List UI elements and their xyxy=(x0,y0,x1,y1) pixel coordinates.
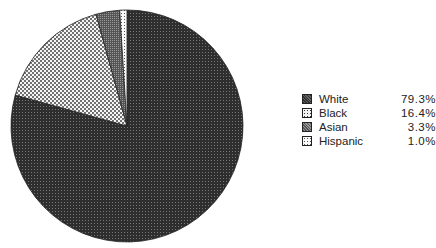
asian-swatch-icon xyxy=(302,122,312,132)
legend-item-white: White 79.3% xyxy=(302,92,436,106)
legend: White 79.3% Black 16.4% Asian 3.3% Hispa… xyxy=(302,92,436,148)
legend-label: Asian xyxy=(319,121,388,133)
legend-item-black: Black 16.4% xyxy=(302,106,436,120)
legend-value: 3.3% xyxy=(388,121,436,133)
white-swatch-icon xyxy=(302,94,312,104)
legend-label: Hispanic xyxy=(319,135,388,147)
pie-chart xyxy=(0,0,260,248)
legend-item-asian: Asian 3.3% xyxy=(302,120,436,134)
black-swatch-icon xyxy=(302,108,312,118)
pie-slices xyxy=(11,10,243,242)
legend-value: 16.4% xyxy=(388,107,436,119)
hispanic-swatch-icon xyxy=(302,136,312,146)
legend-label: Black xyxy=(319,107,388,119)
legend-item-hispanic: Hispanic 1.0% xyxy=(302,134,436,148)
legend-value: 79.3% xyxy=(388,93,436,105)
legend-value: 1.0% xyxy=(388,135,436,147)
legend-label: White xyxy=(319,93,388,105)
